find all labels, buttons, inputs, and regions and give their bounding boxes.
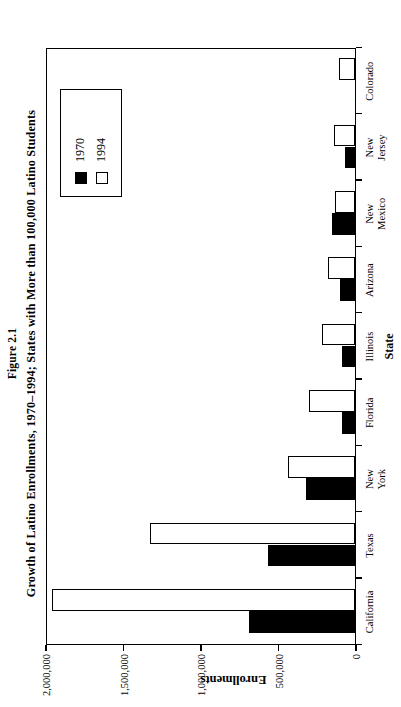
category-axis-tick bbox=[356, 445, 362, 446]
chart-figure: Figure 2.1 Growth of Latino Enrollments,… bbox=[0, 0, 401, 707]
rotated-figure-canvas: Figure 2.1 Growth of Latino Enrollments,… bbox=[0, 0, 401, 707]
bar-new-jersey-1970 bbox=[345, 147, 355, 169]
category-label: Colorado bbox=[364, 36, 376, 126]
figure-caption: Growth of Latino Enrollments, 1970–1994;… bbox=[24, 0, 39, 707]
category-axis-tick bbox=[356, 577, 362, 578]
figure-number: Figure 2.1 bbox=[6, 0, 18, 707]
bar-florida-1994 bbox=[309, 390, 355, 412]
bar-new-york-1970 bbox=[306, 478, 355, 500]
chart-legend: 1970 1994 bbox=[60, 89, 122, 197]
bar-illinois-1994 bbox=[322, 324, 355, 346]
bar-california-1994 bbox=[52, 589, 355, 611]
value-axis-tick-label: 1,500,000 bbox=[118, 654, 129, 696]
value-axis-tick-label: 0 bbox=[351, 654, 362, 659]
value-axis-tick bbox=[278, 645, 279, 651]
bar-texas-1994 bbox=[150, 523, 355, 545]
legend-swatch-1970-icon bbox=[75, 172, 87, 184]
bar-florida-1970 bbox=[342, 412, 355, 434]
value-axis-title: Enrollments bbox=[114, 672, 354, 687]
value-axis-tick bbox=[123, 645, 124, 651]
category-axis-tick bbox=[356, 312, 362, 313]
value-axis-tick-label: 2,000,000 bbox=[41, 654, 52, 696]
legend-swatch-1994-icon bbox=[96, 172, 108, 184]
legend-label-1994: 1994 bbox=[94, 138, 109, 162]
category-axis-tick bbox=[356, 511, 362, 512]
value-axis-tick-label: 500,000 bbox=[273, 654, 284, 688]
bar-colorado-1994 bbox=[339, 58, 355, 80]
value-axis-tick bbox=[200, 645, 201, 651]
bar-new-jersey-1994 bbox=[334, 125, 355, 147]
bar-new-mexico-1970 bbox=[332, 213, 355, 235]
bar-new-mexico-1994 bbox=[335, 191, 355, 213]
category-axis-tick bbox=[356, 113, 362, 114]
bar-arizona-1994 bbox=[328, 257, 355, 279]
category-axis-tick bbox=[356, 644, 362, 645]
bar-new-york-1994 bbox=[288, 456, 355, 478]
figure-page: Figure 2.1 Growth of Latino Enrollments,… bbox=[0, 0, 401, 707]
category-axis-tick bbox=[356, 246, 362, 247]
value-axis-tick-label: 1,000,000 bbox=[196, 654, 207, 696]
legend-label-1970: 1970 bbox=[73, 138, 88, 162]
bar-california-1970 bbox=[249, 611, 355, 633]
value-axis: Enrollments 0500,0001,000,0001,500,0002,… bbox=[46, 645, 356, 707]
value-axis-tick bbox=[45, 645, 46, 651]
bar-illinois-1970 bbox=[342, 346, 355, 368]
value-axis-tick bbox=[355, 645, 356, 651]
bar-texas-1970 bbox=[268, 545, 355, 567]
bar-arizona-1970 bbox=[340, 279, 355, 301]
legend-item-1970: 1970 bbox=[70, 102, 91, 184]
category-axis-tick bbox=[356, 378, 362, 379]
category-axis-tick bbox=[356, 179, 362, 180]
category-axis-tick bbox=[356, 47, 362, 48]
legend-item-1994: 1994 bbox=[91, 102, 112, 184]
category-axis-title: State bbox=[382, 48, 397, 645]
